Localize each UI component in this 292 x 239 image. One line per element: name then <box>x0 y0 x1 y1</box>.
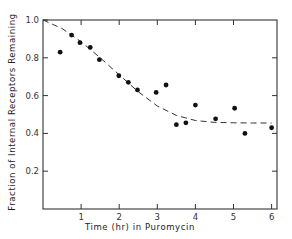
data-point <box>269 125 274 130</box>
data-point <box>78 40 83 45</box>
data-point <box>135 88 140 93</box>
data-point <box>58 50 63 55</box>
data-point <box>88 45 93 50</box>
x-tick-label: 3 <box>155 212 160 222</box>
data-point <box>232 106 237 111</box>
data-point <box>213 116 218 121</box>
data-point <box>126 80 131 85</box>
data-point <box>164 83 169 88</box>
data-point <box>116 73 121 78</box>
y-tick-labels: 0.20.40.60.81.0 <box>25 15 39 176</box>
data-point <box>183 120 188 125</box>
y-tick-label: 0.8 <box>25 53 39 63</box>
data-point <box>97 57 102 62</box>
data-point <box>154 90 159 95</box>
data-point <box>243 131 248 136</box>
x-tick-label: 1 <box>78 212 83 222</box>
plot-frame <box>43 20 277 209</box>
axis-ticks <box>43 20 277 209</box>
x-axis-title: Time (hr) in Puromycin <box>84 222 195 232</box>
x-tick-labels: 123456 <box>78 212 274 222</box>
y-tick-label: 0.2 <box>25 166 39 176</box>
data-point <box>193 103 198 108</box>
y-tick-label: 0.4 <box>25 128 39 138</box>
x-tick-label: 6 <box>269 212 274 222</box>
data-point <box>69 33 74 38</box>
x-tick-label: 5 <box>231 212 236 222</box>
data-points <box>58 33 274 136</box>
fitted-dashed-curve <box>43 20 272 123</box>
y-tick-label: 0.6 <box>25 91 39 101</box>
scatter-chart: 123456 0.20.40.60.81.0 Time (hr) in Puro… <box>0 0 292 239</box>
x-tick-label: 2 <box>116 212 121 222</box>
y-axis-title: Fraction of Internal Receptors Remaining <box>7 13 17 210</box>
y-tick-label: 1.0 <box>25 15 39 25</box>
data-point <box>174 122 179 127</box>
x-tick-label: 4 <box>193 212 198 222</box>
